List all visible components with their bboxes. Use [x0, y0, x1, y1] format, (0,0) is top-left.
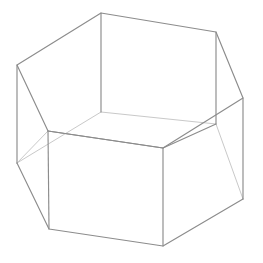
drawing-canvas [0, 0, 263, 263]
hexagonal-prism-figure [0, 0, 263, 263]
face-front-wall [48, 131, 163, 246]
